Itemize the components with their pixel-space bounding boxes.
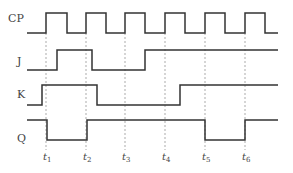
time-label-t4: t4 [162, 151, 171, 164]
time-label-t3: t3 [122, 151, 131, 164]
waveform-q [27, 120, 278, 140]
time-label-t6: t6 [242, 151, 251, 164]
time-label-t1: t1 [43, 151, 52, 164]
time-labels: t1 t2 t3 t4 t5 t6 [43, 151, 251, 164]
timing-diagram-svg: CP J K Q t1 t2 t3 t4 t5 t6 [0, 0, 293, 173]
waveform-k [27, 85, 278, 105]
signal-label-q: Q [17, 132, 26, 145]
waveform-j [27, 50, 278, 70]
signal-label-j: J [16, 55, 21, 68]
signal-label-k: K [17, 88, 26, 101]
time-label-t5: t5 [202, 151, 211, 164]
waveform-cp [27, 13, 278, 33]
jk-flipflop-timing-diagram: CP J K Q t1 t2 t3 t4 t5 t6 [0, 0, 293, 173]
signal-label-cp: CP [8, 12, 24, 25]
time-label-t2: t2 [83, 151, 92, 164]
